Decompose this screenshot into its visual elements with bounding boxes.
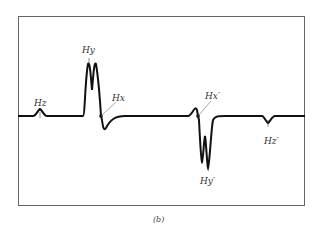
label-hz-prime: Hz′	[263, 136, 279, 146]
frame	[19, 17, 305, 206]
spectrum-trace	[18, 63, 305, 168]
label-hy-prime: Hy′	[199, 176, 215, 186]
label-hy: Hy	[81, 45, 96, 55]
spectrum-diagram: Hz Hy Hx Hx′ Hy′ Hz′ (b)	[0, 0, 320, 228]
figure-caption: (b)	[153, 215, 164, 224]
label-hx: Hx	[111, 93, 125, 103]
label-hz: Hz	[33, 98, 47, 108]
label-hx-prime: Hx′	[204, 91, 220, 101]
